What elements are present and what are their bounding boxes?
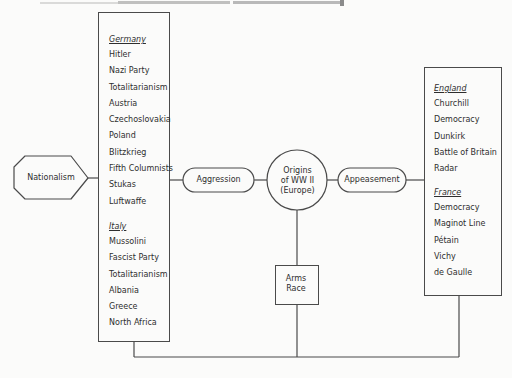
list-item: Poland: [109, 128, 167, 144]
origins-line-2: of WW II: [267, 176, 328, 186]
list-item: de Gaulle: [434, 265, 499, 281]
list-item: Churchill: [434, 96, 499, 112]
list-item: Totalitarianism: [109, 80, 167, 96]
list-item: Vichy: [434, 249, 499, 265]
arms-race-label: Arms Race: [275, 274, 317, 294]
germany-section: Germany HitlerNazi PartyTotalitarianismA…: [109, 33, 167, 210]
arms-race-line-1: Arms: [275, 274, 317, 284]
france-section: France DemocracyMaginot LinePétainVichyd…: [434, 186, 499, 281]
italy-items: MussoliniFascist PartyTotalitarianismAlb…: [109, 234, 167, 332]
section-header-france: France: [434, 186, 499, 200]
england-items: ChurchillDemocracyDunkirkBattle of Brita…: [434, 96, 499, 177]
list-item: Stukas: [109, 177, 167, 193]
list-item: Nazi Party: [109, 63, 167, 79]
section-header-italy: Italy: [109, 220, 167, 234]
list-item: Fifth Columnists: [109, 161, 167, 177]
list-item: Battle of Britain: [434, 145, 499, 161]
france-items: DemocracyMaginot LinePétainVichyde Gaull…: [434, 200, 499, 281]
england-france-box: England ChurchillDemocracyDunkirkBattle …: [424, 67, 502, 296]
list-item: Czechoslovakia: [109, 112, 167, 128]
england-section: England ChurchillDemocracyDunkirkBattle …: [434, 82, 499, 177]
concept-map-diagram: Germany HitlerNazi PartyTotalitarianismA…: [0, 0, 512, 378]
list-item: Blitzkrieg: [109, 145, 167, 161]
list-item: Democracy: [434, 112, 499, 128]
list-item: Austria: [109, 96, 167, 112]
germany-italy-box: Germany HitlerNazi PartyTotalitarianismA…: [98, 12, 170, 342]
list-item: Maginot Line: [434, 216, 499, 232]
list-item: Albania: [109, 283, 167, 299]
list-item: Fascist Party: [109, 250, 167, 266]
list-item: Greece: [109, 299, 167, 315]
list-item: Totalitarianism: [109, 267, 167, 283]
germany-items: HitlerNazi PartyTotalitarianismAustriaCz…: [109, 47, 167, 210]
list-item: Mussolini: [109, 234, 167, 250]
section-header-england: England: [434, 82, 499, 96]
arms-race-line-2: Race: [275, 284, 317, 294]
list-item: Pétain: [434, 233, 499, 249]
section-header-germany: Germany: [109, 33, 167, 47]
origins-label: Origins of WW II (Europe): [267, 166, 328, 196]
nationalism-label: Nationalism: [14, 173, 88, 183]
list-item: North Africa: [109, 315, 167, 331]
list-item: Democracy: [434, 200, 499, 216]
italy-section: Italy MussoliniFascist PartyTotalitarian…: [109, 220, 167, 332]
list-item: Dunkirk: [434, 129, 499, 145]
list-item: Luftwaffe: [109, 194, 167, 210]
list-item: Radar: [434, 161, 499, 177]
origins-line-3: (Europe): [267, 186, 328, 196]
aggression-label: Aggression: [183, 175, 254, 185]
appeasement-label: Appeasement: [338, 175, 406, 185]
origins-line-1: Origins: [267, 166, 328, 176]
list-item: Hitler: [109, 47, 167, 63]
